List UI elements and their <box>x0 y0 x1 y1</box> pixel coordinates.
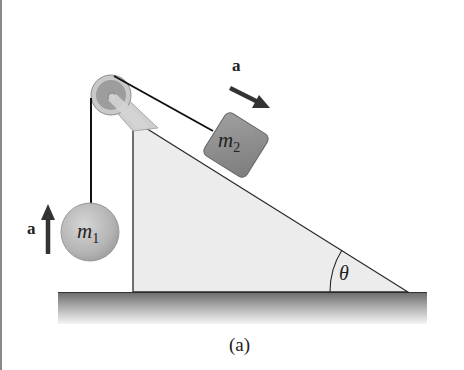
arrow-down-right-icon <box>230 88 270 108</box>
pulley <box>91 75 150 130</box>
accel-label-m2: a <box>232 56 241 76</box>
mass-label-m1: m1 <box>77 219 99 247</box>
figure-caption: (a) <box>229 334 250 356</box>
accel-label-m1: a <box>27 219 36 239</box>
mass-symbol-m1: m <box>77 219 92 243</box>
mass-label-m2: m2 <box>218 128 240 156</box>
arrow-up-icon <box>41 204 55 254</box>
ground <box>58 292 427 324</box>
mass-symbol-m2: m <box>218 128 233 152</box>
mass-subscript-m1: 1 <box>92 231 99 246</box>
incline-wedge <box>133 120 408 292</box>
angle-label-theta: θ <box>339 262 349 285</box>
mass-subscript-m2: 2 <box>233 140 240 155</box>
